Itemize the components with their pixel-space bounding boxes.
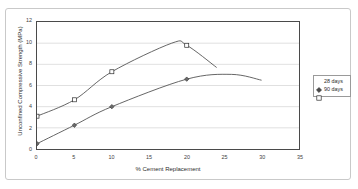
x-tick-20: 20 bbox=[184, 155, 190, 160]
y-tick-12: 12 bbox=[18, 18, 32, 23]
data-point-90-days-20 bbox=[185, 43, 189, 47]
plot-area bbox=[36, 21, 300, 150]
data-point-28-days-20 bbox=[185, 77, 189, 81]
x-tick-35: 35 bbox=[297, 155, 303, 160]
y-tick-8: 8 bbox=[18, 61, 32, 66]
x-tick-0: 0 bbox=[35, 155, 38, 160]
legend-item-28-days[interactable]: 28 days bbox=[316, 78, 348, 86]
series-group bbox=[37, 41, 262, 144]
legend-label-90-days: 90 days bbox=[324, 87, 343, 92]
y-tick-6: 6 bbox=[18, 83, 32, 88]
plot-svg bbox=[37, 22, 299, 149]
data-point-90-days-5 bbox=[72, 98, 76, 102]
data-point-28-days-0 bbox=[37, 142, 39, 146]
legend-label-28-days: 28 days bbox=[324, 79, 343, 84]
data-point-28-days-5 bbox=[72, 123, 76, 127]
data-point-90-days-10 bbox=[110, 70, 114, 74]
x-tick-15: 15 bbox=[146, 155, 152, 160]
y-tick-4: 4 bbox=[18, 104, 32, 109]
x-tick-5: 5 bbox=[72, 155, 75, 160]
legend-item-90-days[interactable]: 90 days bbox=[316, 86, 348, 94]
x-tick-10: 10 bbox=[108, 155, 114, 160]
series-line-28-days bbox=[37, 74, 262, 143]
markers-group bbox=[37, 43, 189, 146]
legend: 28 days 90 days bbox=[313, 75, 351, 97]
y-tick-0: 0 bbox=[18, 147, 32, 152]
y-tick-10: 10 bbox=[18, 40, 32, 45]
data-point-28-days-10 bbox=[110, 104, 114, 108]
x-tick-30: 30 bbox=[259, 155, 265, 160]
chart-figure: Unconfined Compressive Strength (MPa) 0 … bbox=[0, 0, 358, 189]
filled-diamond-marker-icon bbox=[316, 79, 322, 85]
x-axis-title: % Cement Replacement bbox=[36, 166, 300, 172]
data-point-90-days-0 bbox=[37, 114, 39, 118]
y-tick-2: 2 bbox=[18, 126, 32, 131]
x-tick-25: 25 bbox=[222, 155, 228, 160]
open-square-marker-icon bbox=[316, 87, 322, 93]
